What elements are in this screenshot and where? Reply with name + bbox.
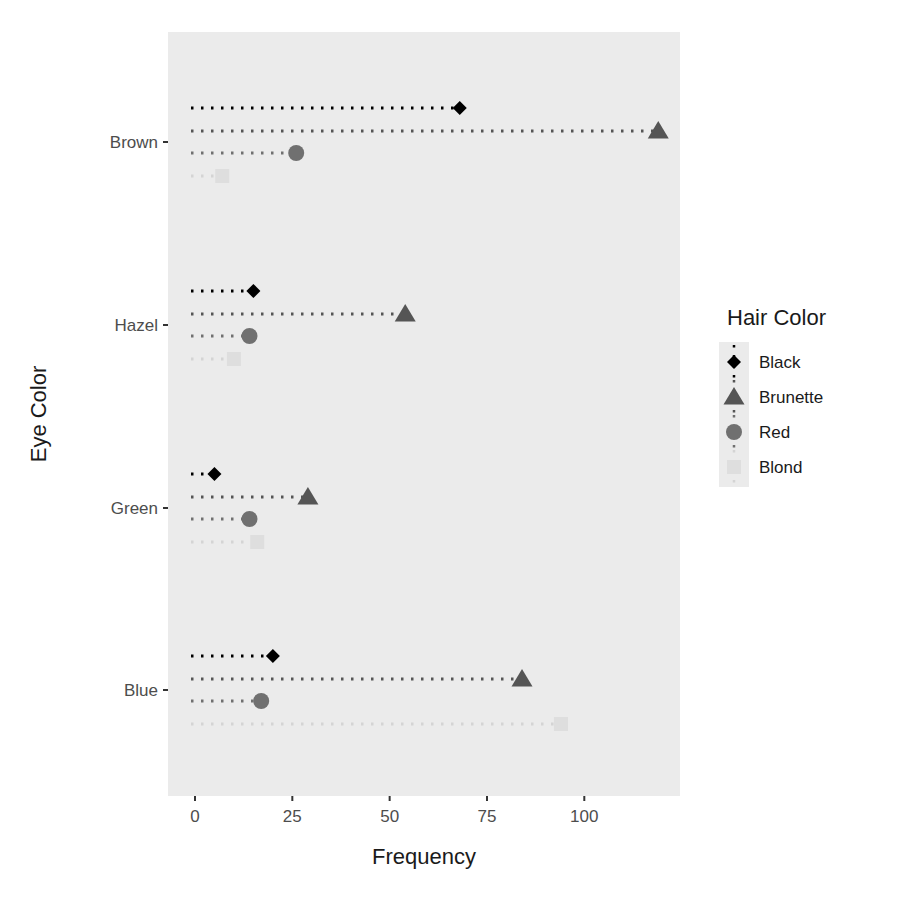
y-tick-label-blue: Blue bbox=[124, 681, 158, 700]
panel-background bbox=[168, 32, 680, 796]
x-tick-label-50: 50 bbox=[380, 807, 399, 826]
x-tick-label-0: 0 bbox=[190, 807, 199, 826]
y-axis-title: Eye Color bbox=[26, 366, 51, 463]
legend-key-blond bbox=[727, 460, 741, 474]
y-tick-label-brown: Brown bbox=[110, 133, 158, 152]
point-red-green bbox=[242, 511, 258, 527]
legend: Hair Color BlackBrunetteRedBlond bbox=[719, 305, 826, 487]
y-tick-label-hazel: Hazel bbox=[115, 316, 158, 335]
y-tick-label-green: Green bbox=[111, 499, 158, 518]
x-tick-label-75: 75 bbox=[478, 807, 497, 826]
point-red-hazel bbox=[242, 328, 258, 344]
legend-label-brunette: Brunette bbox=[759, 388, 823, 407]
point-blond-green bbox=[250, 535, 264, 549]
legend-label-black: Black bbox=[759, 353, 801, 372]
legend-label-blond: Blond bbox=[759, 458, 802, 477]
x-axis: 0255075100 bbox=[190, 796, 598, 826]
x-tick-label-25: 25 bbox=[283, 807, 302, 826]
legend-title: Hair Color bbox=[727, 305, 826, 330]
point-red-blue bbox=[253, 693, 269, 709]
x-tick-label-100: 100 bbox=[570, 807, 598, 826]
legend-key-red bbox=[726, 424, 742, 440]
x-axis-title: Frequency bbox=[372, 844, 476, 869]
y-axis: BlueGreenHazelBrown bbox=[110, 133, 168, 700]
point-blond-blue bbox=[554, 717, 568, 731]
legend-label-red: Red bbox=[759, 423, 790, 442]
point-red-brown bbox=[288, 145, 304, 161]
dot-plot-chart: BlueGreenHazelBrown 0255075100 Frequency… bbox=[0, 0, 911, 909]
point-blond-brown bbox=[215, 169, 229, 183]
point-blond-hazel bbox=[227, 352, 241, 366]
